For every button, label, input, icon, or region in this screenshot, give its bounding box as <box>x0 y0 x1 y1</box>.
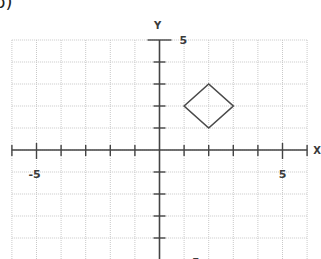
coordinate-grid: Y X -5 5 5 -5 <box>0 0 321 259</box>
axes <box>12 40 307 259</box>
y-axis-label: Y <box>153 20 162 31</box>
x-positive-five-label: 5 <box>279 168 287 181</box>
x-axis-label: X <box>313 145 321 156</box>
y-positive-five-label: 5 <box>180 34 188 47</box>
x-negative-five-label: -5 <box>28 168 40 181</box>
